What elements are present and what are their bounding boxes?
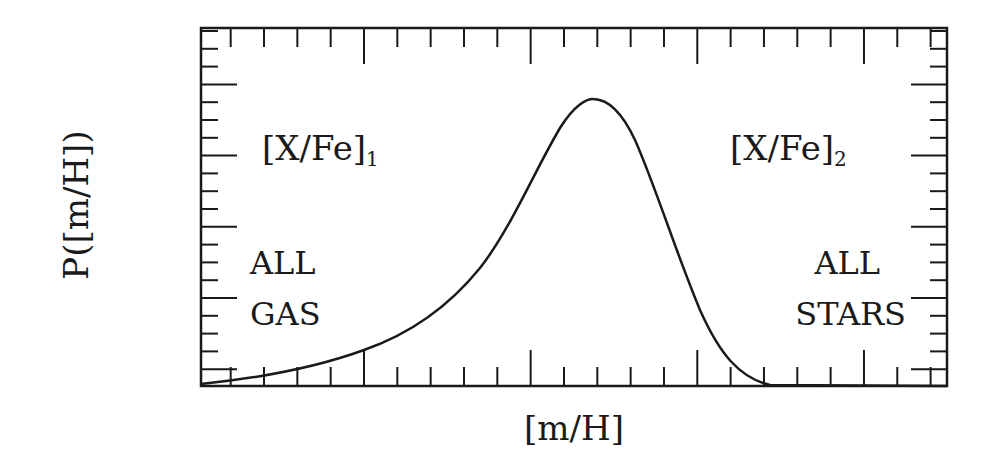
chart-figure: [m/H] P([m/H]) [X/Fe]1 [X/Fe]2 ALL GAS A… — [0, 0, 992, 466]
annotation-all-stars-line2: STARS — [795, 295, 906, 333]
annotation-all-gas-line1: ALL — [249, 244, 316, 282]
annotation-xfe-1-sub: 1 — [366, 147, 379, 171]
annotation-all-stars-line1: ALL — [813, 244, 880, 282]
annotation-xfe-2: [X/Fe]2 — [730, 128, 847, 171]
annotation-all-gas-line2: GAS — [250, 295, 321, 333]
annotation-xfe-2-base: [X/Fe] — [730, 128, 834, 168]
y-axis-label: P([m/H]) — [56, 130, 96, 279]
annotation-xfe-1: [X/Fe]1 — [262, 128, 379, 171]
annotation-xfe-2-sub: 2 — [834, 147, 847, 171]
x-axis-label: [m/H] — [524, 408, 624, 448]
annotation-xfe-1-base: [X/Fe] — [262, 128, 366, 168]
